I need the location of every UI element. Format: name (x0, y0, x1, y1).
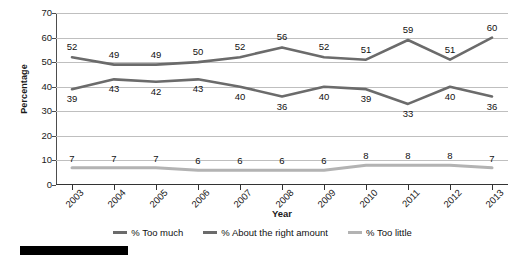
y-tick-label-40: 40 (30, 82, 52, 92)
data-label-s2-2003: 7 (59, 154, 85, 164)
data-label-s1-2005: 42 (143, 87, 169, 97)
data-label-s1-2012: 40 (437, 92, 463, 102)
data-label-s0-2003: 52 (59, 42, 85, 52)
legend-item-2[interactable]: % Too little (348, 227, 412, 238)
data-label-s2-2009: 6 (311, 156, 337, 166)
y-tick-label-50: 50 (30, 57, 52, 67)
data-label-s2-2007: 6 (227, 156, 253, 166)
data-label-s2-2010: 8 (353, 151, 379, 161)
chart-legend: % Too much% About the right amount% Too … (0, 227, 525, 238)
data-label-s1-2007: 40 (227, 92, 253, 102)
data-label-s2-2011: 8 (395, 151, 421, 161)
bottom-black-bar (20, 246, 128, 255)
data-label-s0-2005: 49 (143, 50, 169, 60)
y-tick-label-60: 60 (30, 33, 52, 43)
data-label-s2-2005: 7 (143, 154, 169, 164)
legend-label: % About the right amount (221, 227, 328, 238)
y-tick-label-20: 20 (30, 131, 52, 141)
data-label-s2-2006: 6 (185, 156, 211, 166)
legend-item-0[interactable]: % Too much (113, 227, 183, 238)
data-label-s0-2008: 56 (269, 32, 295, 42)
plot-area: 5249495052565251595160394342434036403933… (56, 13, 508, 185)
y-tick-label-30: 30 (30, 106, 52, 116)
data-label-s1-2010: 39 (353, 94, 379, 104)
legend-line-icon (348, 231, 362, 234)
data-label-s0-2004: 49 (101, 50, 127, 60)
data-label-s0-2012: 51 (437, 45, 463, 55)
data-label-s1-2011: 33 (395, 109, 421, 119)
data-label-s0-2011: 59 (395, 25, 421, 35)
data-label-s2-2013: 7 (479, 154, 505, 164)
data-label-s2-2012: 8 (437, 151, 463, 161)
y-tick-label-0: 0 (30, 180, 52, 190)
data-label-s1-2006: 43 (185, 84, 211, 94)
y-tick-label-70: 70 (30, 8, 52, 18)
data-label-s2-2004: 7 (101, 154, 127, 164)
line-chart: Percentage 706050403020100 5249495052565… (0, 0, 525, 258)
series-line-2 (72, 165, 492, 170)
legend-item-1[interactable]: % About the right amount (203, 227, 328, 238)
y-tick-label-10: 10 (30, 155, 52, 165)
y-axis-tick-labels: 706050403020100 (28, 0, 52, 258)
x-axis-title: Year (56, 208, 508, 219)
legend-line-icon (203, 231, 217, 234)
legend-line-icon (113, 231, 127, 234)
data-label-s2-2008: 6 (269, 156, 295, 166)
data-label-s0-2009: 52 (311, 42, 337, 52)
legend-label: % Too much (131, 227, 183, 238)
data-label-s0-2006: 50 (185, 47, 211, 57)
data-label-s1-2004: 43 (101, 84, 127, 94)
data-label-s1-2003: 39 (59, 94, 85, 104)
data-label-s1-2009: 40 (311, 92, 337, 102)
y-tickmark-0 (52, 185, 56, 186)
legend-label: % Too little (366, 227, 412, 238)
data-label-s0-2010: 51 (353, 45, 379, 55)
data-label-s1-2013: 36 (479, 102, 505, 112)
data-label-s0-2007: 52 (227, 42, 253, 52)
data-label-s1-2008: 36 (269, 102, 295, 112)
data-label-s0-2013: 60 (479, 23, 505, 33)
